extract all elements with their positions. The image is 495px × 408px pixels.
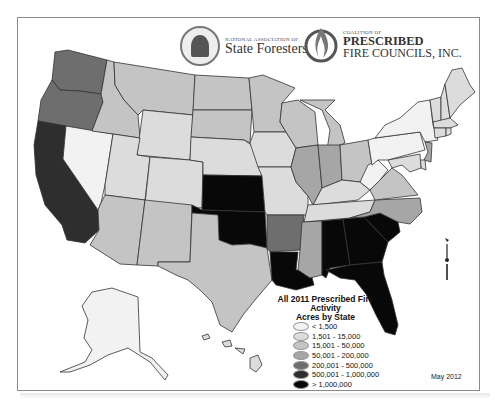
state-mississippi[interactable] bbox=[298, 221, 322, 278]
state-north-dakota[interactable] bbox=[193, 75, 252, 110]
map-legend: All 2011 Prescribed Fire Activity Acres … bbox=[263, 295, 388, 389]
legend-swatch bbox=[293, 341, 309, 350]
legend-label: 50,001 - 200,000 bbox=[312, 351, 369, 360]
legend-label: 500,001 - 1,000,000 bbox=[312, 370, 379, 379]
state-rhode-island[interactable] bbox=[446, 128, 451, 136]
flame-icon bbox=[303, 24, 339, 64]
nasf-logo: NATIONAL ASSOCIATION OF State Foresters bbox=[180, 26, 308, 66]
legend-swatch bbox=[293, 322, 309, 331]
legend-swatch bbox=[293, 380, 309, 389]
legend-label: < 1,500 bbox=[312, 322, 337, 331]
legend-item: < 1,500 bbox=[293, 322, 388, 332]
legend-item: 1,501 - 15,000 bbox=[293, 332, 388, 342]
legend-swatch bbox=[293, 361, 309, 370]
legend-title-line2: Acres by State bbox=[263, 313, 388, 322]
cpfc-org-line2: PRESCRIBED bbox=[343, 35, 462, 47]
state-colorado[interactable] bbox=[145, 157, 203, 208]
legend-swatch bbox=[293, 370, 309, 379]
legend-item: > 1,000,000 bbox=[293, 380, 388, 390]
state-washington[interactable] bbox=[52, 50, 107, 94]
legend-item: 500,001 - 1,000,000 bbox=[293, 370, 388, 380]
legend-label: 1,501 - 15,000 bbox=[312, 332, 360, 341]
legend-item: 200,001 - 500,000 bbox=[293, 360, 388, 370]
legend-label: 200,001 - 500,000 bbox=[312, 361, 373, 370]
state-arkansas[interactable] bbox=[267, 215, 304, 252]
legend-swatch bbox=[293, 351, 309, 360]
cpfc-org-line3: FIRE COUNCILS, INC. bbox=[343, 47, 462, 59]
state-connecticut[interactable] bbox=[434, 128, 446, 138]
cpfc-logo: COALITION OF PRESCRIBED FIRE COUNCILS, I… bbox=[303, 24, 462, 64]
state-maine[interactable] bbox=[445, 68, 475, 118]
date-label: May 2012 bbox=[431, 373, 462, 380]
tree-seal-icon bbox=[180, 26, 220, 66]
state-kansas[interactable] bbox=[202, 175, 265, 212]
state-new-mexico[interactable] bbox=[137, 200, 192, 266]
state-wyoming[interactable] bbox=[137, 110, 193, 160]
north-arrow-icon bbox=[443, 238, 451, 280]
state-hawaii[interactable] bbox=[202, 334, 262, 372]
legend-title-line1: All 2011 Prescribed Fire Activity bbox=[263, 295, 388, 313]
nasf-org-name: State Foresters bbox=[225, 42, 308, 56]
legend-swatch bbox=[293, 332, 309, 341]
state-new-jersey[interactable] bbox=[424, 142, 432, 162]
state-alaska[interactable] bbox=[60, 288, 168, 380]
legend-item: 15,001 - 50,000 bbox=[293, 341, 388, 351]
legend-label: 15,001 - 50,000 bbox=[312, 341, 365, 350]
legend-label: > 1,000,000 bbox=[312, 380, 352, 389]
legend-item: 50,001 - 200,000 bbox=[293, 351, 388, 361]
